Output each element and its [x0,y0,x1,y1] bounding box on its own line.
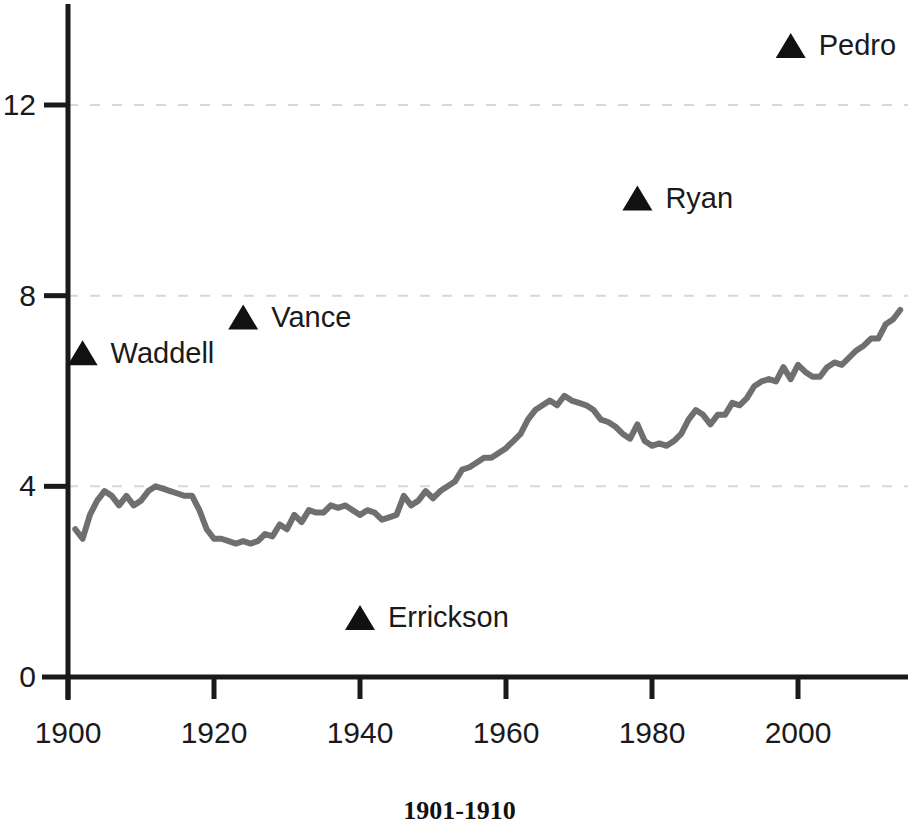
point-label-vance: Vance [271,303,351,332]
point-label-pedro: Pedro [819,31,896,60]
point-label-waddell: Waddell [111,338,215,367]
y-tick-12: 12 [3,90,36,120]
gridlines [68,105,908,486]
chart-canvas [0,0,919,832]
triangle-marker [68,340,98,365]
x-tick-1900: 1900 [35,718,102,748]
x-tick-1960: 1960 [473,718,540,748]
y-tick-4: 4 [19,471,36,501]
point-label-ryan: Ryan [665,183,733,212]
point-label-errickson: Errickson [388,603,509,632]
x-tick-1940: 1940 [327,718,394,748]
chart-caption: 1901-1910 [0,796,919,826]
triangle-marker [622,185,652,210]
x-tick-1980: 1980 [619,718,686,748]
line-chart: 04812 190019201940196019802000 WaddellVa… [0,0,919,832]
triangle-marker [345,605,375,630]
x-tick-1920: 1920 [181,718,248,748]
y-tick-0: 0 [19,662,36,692]
x-tick-2000: 2000 [765,718,832,748]
triangle-marker [776,33,806,58]
annotated-point-markers [68,33,806,630]
y-tick-8: 8 [19,281,36,311]
triangle-marker [228,305,258,330]
